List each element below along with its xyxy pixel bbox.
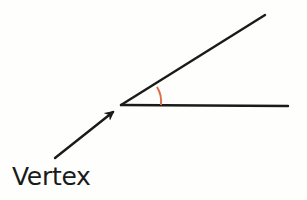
vertex-label: Vertex [12,162,91,192]
lower-ray [121,105,288,106]
vertex-arrow [55,112,113,158]
upper-ray [121,15,265,105]
angle-diagram: Vertex [0,0,307,200]
angle-arc [157,87,161,105]
